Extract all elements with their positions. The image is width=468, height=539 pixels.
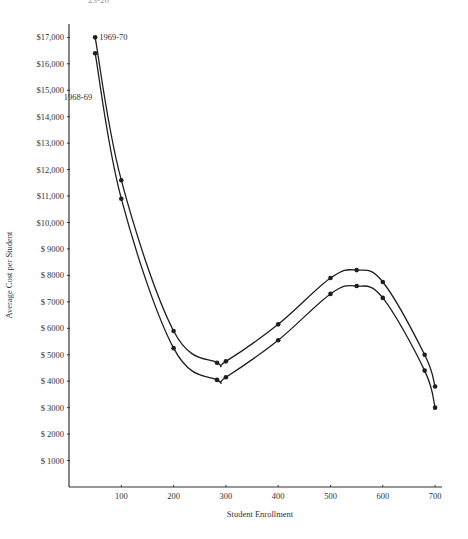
data-point [276, 322, 281, 327]
y-tick-label: $11,000 [37, 191, 64, 201]
data-point [171, 346, 176, 351]
x-axis: 100200300400500600700 [69, 485, 442, 501]
data-point [433, 384, 438, 389]
y-tick-label: $14,000 [36, 112, 64, 122]
data-point [215, 378, 220, 383]
y-tick-label: $13,000 [36, 138, 64, 148]
y-tick-label: $15,000 [36, 85, 64, 95]
y-tick-label: $17,000 [36, 32, 64, 42]
data-point [422, 368, 427, 373]
y-tick-label: $16,000 [36, 59, 64, 69]
x-tick-label: 300 [220, 491, 233, 501]
x-tick-label: 600 [376, 491, 389, 501]
series-line [95, 37, 435, 386]
x-tick-label: 700 [429, 491, 442, 501]
series-label: 1969-70 [99, 32, 127, 42]
data-point [276, 338, 281, 343]
data-point [328, 276, 333, 281]
data-point [381, 280, 386, 285]
x-tick-label: 400 [272, 491, 285, 501]
y-tick-label: $ 3000 [41, 403, 64, 413]
series-1969-70: 1969-70 [93, 32, 438, 388]
data-point [119, 178, 124, 183]
data-point [422, 352, 427, 357]
y-tick-label: $ 8000 [41, 270, 64, 280]
y-tick-label: $ 1000 [41, 456, 64, 466]
data-point [119, 196, 124, 201]
data-point [215, 360, 220, 365]
y-tick-label: $10,000 [36, 218, 64, 228]
data-point [93, 35, 98, 40]
data-point [93, 51, 98, 56]
data-point [354, 268, 359, 273]
y-tick-label: $ 6000 [41, 323, 64, 333]
x-axis-title: Student Enrollment [227, 509, 294, 519]
data-point [171, 329, 176, 334]
y-tick-label: $ 5000 [41, 350, 64, 360]
series-line [95, 53, 435, 407]
y-tick-label: $ 4000 [41, 376, 64, 386]
data-point [354, 284, 359, 289]
x-tick-label: 100 [115, 491, 128, 501]
series-label: 1968-69 [64, 92, 92, 102]
x-tick-label: 500 [324, 491, 337, 501]
y-tick-label: $ 9000 [41, 244, 64, 254]
data-point [224, 375, 229, 380]
y-tick-label: $ 7000 [41, 297, 64, 307]
x-tick-label: 200 [167, 491, 180, 501]
series-1968-69: 1968-69 [64, 51, 438, 410]
data-point [328, 292, 333, 297]
series-layer: 1969-701968-69 [64, 32, 438, 410]
data-point [224, 359, 229, 364]
y-tick-label: $12,000 [36, 165, 64, 175]
y-tick-label: $ 2000 [41, 429, 64, 439]
cost-per-student-chart: $ 1000$ 2000$ 3000$ 4000$ 5000$ 6000$ 70… [0, 0, 468, 539]
data-point [433, 405, 438, 410]
data-point [381, 296, 386, 301]
y-axis-title: Average Cost per Student [4, 231, 14, 319]
